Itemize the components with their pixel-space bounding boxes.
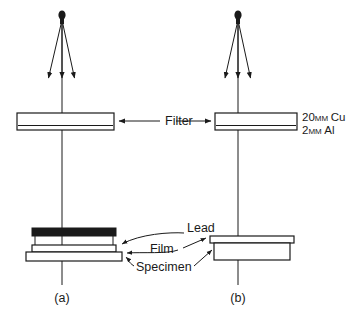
filter-al-material: Al — [324, 124, 334, 136]
filter-plate-a — [17, 113, 114, 130]
specimen-leader-b — [194, 250, 212, 266]
filter-cu-material: Cu — [331, 111, 346, 123]
ray-arrow-icon-a-left — [49, 20, 63, 78]
panel-a: (a) — [17, 10, 122, 305]
figure-canvas: (a) (b) Filter — [0, 0, 356, 322]
film-layer-a — [32, 245, 116, 252]
filter-cu-unit: MM — [315, 114, 329, 123]
film-label: Film — [150, 242, 174, 256]
filter-cu-value: 20 — [302, 111, 315, 123]
filter-cu-label: 20MMCu — [302, 111, 345, 123]
panel-b: (b) — [210, 10, 297, 305]
caption-a: (a) — [54, 291, 69, 305]
film-layer-b — [210, 236, 294, 243]
specimen-label: Specimen — [136, 260, 192, 274]
filter-plate-b — [215, 113, 297, 130]
filter-al-unit: MM — [308, 127, 322, 136]
ray-arrow-icon-b-right — [238, 20, 251, 78]
lead-label: Lead — [187, 221, 215, 235]
radiography-setup-figure: (a) (b) Filter — [0, 0, 356, 322]
film-leader-b — [183, 238, 206, 248]
ray-arrow-icon-b-left — [225, 20, 238, 78]
specimen-leader-a — [126, 257, 134, 266]
specimen-block-b — [214, 243, 290, 260]
filter-al-label: 2MMAl — [302, 124, 334, 136]
caption-b: (b) — [230, 291, 245, 305]
lead-block — [32, 228, 116, 236]
ray-arrow-icon-a-right — [62, 20, 75, 78]
specimen-block-a — [26, 252, 122, 261]
